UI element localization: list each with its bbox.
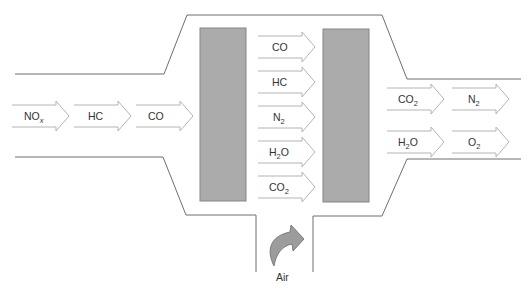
outlet-arrow-co2: CO2: [387, 84, 444, 114]
arrow-label: CO: [272, 41, 288, 53]
air-label: Air: [276, 271, 289, 283]
housing-outline: [15, 15, 521, 272]
arrow-label: H2O: [398, 136, 418, 151]
arrow-label: CO: [148, 110, 164, 122]
middle-arrow-hc: HC: [258, 67, 315, 97]
inlet-arrow-hc: HC: [74, 101, 131, 131]
middle-arrow-h2o: H2O: [258, 137, 315, 167]
arrow-label: NOx: [24, 110, 44, 125]
arrow-shape-icon: [136, 101, 193, 131]
housing-top-edge: [15, 15, 521, 79]
air-curved-arrow-icon: [270, 225, 304, 266]
arrow-label: H2O: [269, 146, 289, 161]
arrow-label: CO2: [398, 93, 418, 108]
inlet-arrow-nox: NOx: [12, 101, 69, 131]
middle-arrow-co2: CO2: [258, 172, 315, 202]
outlet-arrow-o2: O2: [452, 127, 509, 157]
arrow-shape-icon: [452, 84, 509, 114]
outlet-arrow-n2: N2: [452, 84, 509, 114]
middle-arrow-co: CO: [258, 32, 315, 62]
arrow-label: N2: [468, 93, 480, 108]
outlet-arrow-h2o: H2O: [387, 127, 444, 157]
arrow-label: O2: [468, 136, 480, 151]
catalytic-converter-diagram: NOx HC CO CO HC N2 H2O CO2: [0, 0, 531, 290]
middle-arrow-n2: N2: [258, 102, 315, 132]
arrow-shape-icon: [258, 102, 315, 132]
inlet-arrow-co: CO: [136, 101, 193, 131]
catalyst-block-1: [200, 28, 246, 201]
arrow-label: HC: [272, 76, 288, 88]
catalyst-block-2: [323, 29, 369, 202]
arrow-label: N2: [273, 111, 285, 126]
arrow-shape-icon: [452, 127, 509, 157]
diagram-svg: NOx HC CO CO HC N2 H2O CO2: [0, 0, 531, 290]
arrow-label: HC: [88, 110, 104, 122]
arrow-label: CO2: [269, 181, 289, 196]
